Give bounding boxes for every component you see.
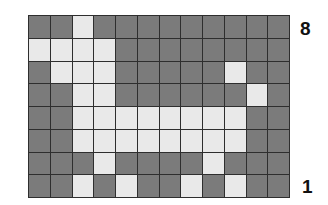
grid-cell	[94, 16, 115, 38]
grid-cell	[181, 84, 202, 106]
grid-cell	[116, 16, 137, 38]
grid-cell	[268, 130, 289, 152]
grid-cell	[94, 62, 115, 84]
grid-cell	[138, 107, 159, 129]
grid-cell	[203, 130, 224, 152]
grid-cell	[181, 175, 202, 197]
grid-cell	[94, 84, 115, 106]
grid-cell	[116, 107, 137, 129]
grid-cell	[138, 62, 159, 84]
grid-cell	[73, 107, 94, 129]
grid-cell	[203, 107, 224, 129]
grid-cell	[73, 39, 94, 61]
grid-cell	[268, 84, 289, 106]
grid-cell	[116, 175, 137, 197]
grid-cell	[73, 62, 94, 84]
grid-cell	[247, 153, 268, 175]
grid-cell	[203, 62, 224, 84]
grid-cell	[116, 153, 137, 175]
grid-cell	[160, 62, 181, 84]
grid-cell	[73, 16, 94, 38]
grid-cell	[51, 84, 72, 106]
grid-cell	[29, 62, 50, 84]
grid-cell	[94, 175, 115, 197]
grid-cell	[29, 107, 50, 129]
grid-cell	[138, 130, 159, 152]
grid-cell	[268, 107, 289, 129]
grid-cell	[160, 39, 181, 61]
grid-cell	[138, 84, 159, 106]
grid-cell	[225, 107, 246, 129]
grid-cell	[160, 16, 181, 38]
grid-cell	[181, 16, 202, 38]
grid-cell	[247, 130, 268, 152]
grid-cell	[268, 175, 289, 197]
grid-cell	[203, 153, 224, 175]
grid-cell	[268, 39, 289, 61]
grid-cell	[73, 153, 94, 175]
grid-cell	[247, 62, 268, 84]
grid-cell	[29, 16, 50, 38]
grid-cell	[160, 130, 181, 152]
grid-cell	[247, 84, 268, 106]
grid-cell	[225, 16, 246, 38]
grid-cell	[73, 130, 94, 152]
grid-cell	[73, 175, 94, 197]
grid-cell	[116, 62, 137, 84]
grid-cell	[94, 130, 115, 152]
grid-cell	[94, 153, 115, 175]
grid-cell	[203, 175, 224, 197]
grid-cell	[247, 107, 268, 129]
grid-cell	[225, 130, 246, 152]
grid-cell	[29, 153, 50, 175]
grid-cell	[51, 16, 72, 38]
grid-cell	[225, 175, 246, 197]
grid-cell	[51, 39, 72, 61]
grid-cell	[225, 153, 246, 175]
grid-cell	[268, 62, 289, 84]
grid-cell	[160, 175, 181, 197]
grid-cell	[94, 107, 115, 129]
grid-cell	[29, 84, 50, 106]
grid-cell	[138, 175, 159, 197]
grid-cell	[116, 130, 137, 152]
grid-cell	[268, 16, 289, 38]
grid-cell	[247, 175, 268, 197]
grid-cell	[203, 84, 224, 106]
grid-cell	[225, 39, 246, 61]
grid-cell	[203, 16, 224, 38]
grid-cell	[160, 153, 181, 175]
grid-cell	[225, 62, 246, 84]
row-label-top: 8	[300, 18, 311, 40]
grid-cell	[29, 175, 50, 197]
grid-cell	[225, 84, 246, 106]
row-label-bottom: 1	[302, 176, 313, 198]
grid-cell	[138, 39, 159, 61]
grid-cell	[160, 84, 181, 106]
grid-cell	[73, 84, 94, 106]
grid-cell	[181, 39, 202, 61]
grid-cell	[29, 39, 50, 61]
grid-cell	[181, 153, 202, 175]
grid-cell	[51, 175, 72, 197]
grid-cell	[51, 107, 72, 129]
grid-cell	[203, 39, 224, 61]
grid-cell	[181, 62, 202, 84]
grid-cell	[138, 153, 159, 175]
grid-cell	[268, 153, 289, 175]
grid-cell	[138, 16, 159, 38]
grid-cell	[51, 153, 72, 175]
grid-cell	[181, 107, 202, 129]
grid-cell	[94, 39, 115, 61]
grid-cell	[160, 107, 181, 129]
grid-cell	[29, 130, 50, 152]
grid-cell	[247, 39, 268, 61]
pixel-grid	[28, 15, 290, 198]
grid-cell	[116, 84, 137, 106]
grid-cell	[51, 62, 72, 84]
grid-cell	[181, 130, 202, 152]
grid-cell	[116, 39, 137, 61]
grid-cell	[247, 16, 268, 38]
grid-cell	[51, 130, 72, 152]
